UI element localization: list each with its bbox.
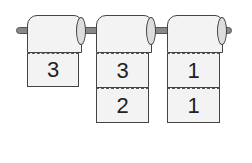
roll-2-sheet-2: 2	[96, 88, 149, 123]
roll-3-end	[217, 17, 227, 45]
roll-1-sheet-1: 3	[27, 53, 79, 87]
roll-2-end	[146, 17, 156, 45]
roll-3-sheet-1: 1	[167, 53, 220, 88]
roll-1	[27, 15, 82, 53]
roll-2	[96, 15, 152, 53]
roll-1-end	[76, 17, 86, 45]
roll-3	[167, 15, 223, 53]
roll-3-sheet-2: 1	[167, 88, 220, 123]
roll-2-sheet-1: 3	[96, 53, 149, 88]
